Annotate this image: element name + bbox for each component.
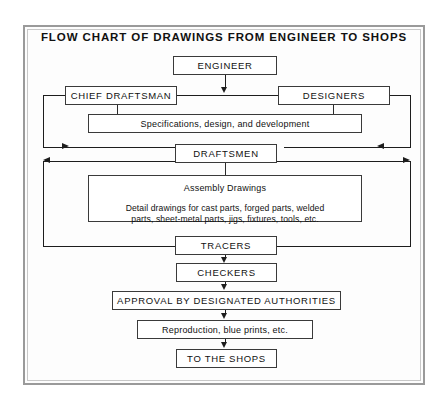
node-assembly-drawings-detail: Detail drawings for cast parts, forged p… [89, 203, 361, 225]
assembly-detail-line-1: Detail drawings for cast parts, forged p… [95, 203, 355, 214]
node-approval-label: APPROVAL BY DESIGNATED AUTHORITIES [117, 295, 336, 306]
edge-left-rail-into-draftsmen-2 [69, 147, 175, 148]
edge-draftsmen-out-right [277, 161, 410, 162]
edge-draftsmen-out-left [43, 161, 175, 162]
arrow-right-rail-into-draftsmen-icon [377, 143, 384, 149]
arrow-draftsmen-out-left-icon [43, 157, 50, 163]
edge-right-rail-upper [410, 95, 411, 148]
edge-right-rail-into-draftsmen [284, 147, 410, 148]
arrow-approval-to-reproduction-icon [221, 313, 227, 319]
edge-designers-right-out [390, 95, 410, 96]
node-to-the-shops-label: TO THE SHOPS [187, 353, 266, 364]
arrow-draftsmen-out-right-icon [403, 157, 410, 163]
page-title: FLOW CHART OF DRAWINGS FROM ENGINEER TO … [23, 31, 425, 43]
node-designers: DESIGNERS [278, 86, 390, 105]
node-engineer-label: ENGINEER [197, 60, 252, 71]
edge-right-rail-into-tracers [277, 246, 410, 247]
node-chief-draftsman-label: CHIEF DRAFTSMAN [71, 90, 172, 101]
arrow-left-rail-into-draftsmen-icon [62, 143, 69, 149]
node-approval: APPROVAL BY DESIGNATED AUTHORITIES [112, 291, 341, 310]
node-reproduction: Reproduction, blue prints, etc. [137, 320, 313, 339]
edge-chief-left-out [43, 95, 66, 96]
edge-draftsmen-to-assembly [225, 163, 226, 175]
node-specifications-label: Specifications, design, and development [141, 119, 310, 129]
flow-chart-figure: FLOW CHART OF DRAWINGS FROM ENGINEER TO … [0, 0, 444, 410]
node-draftsmen: DRAFTSMEN [175, 144, 277, 163]
assembly-detail-line-2: parts, sheet-metal parts, jigs, fixtures… [95, 214, 355, 225]
arrow-checkers-to-approval-icon [221, 284, 227, 290]
edge-left-rail-into-tracers [43, 246, 175, 247]
node-specifications: Specifications, design, and development [88, 114, 362, 133]
edge-chief-to-specifications [117, 105, 118, 114]
node-assembly-drawings: Assembly Drawings Detail drawings for ca… [88, 175, 362, 222]
node-chief-draftsman: CHIEF DRAFTSMAN [65, 86, 177, 105]
node-checkers-label: CHECKERS [197, 267, 255, 278]
edge-chief-to-designers [177, 95, 278, 96]
edge-left-rail-lower [43, 161, 44, 247]
edge-left-rail-upper [43, 95, 44, 148]
node-tracers: TRACERS [175, 236, 277, 255]
arrow-reproduction-to-shops-icon [221, 342, 227, 348]
node-tracers-label: TRACERS [201, 240, 251, 251]
edge-designers-to-specifications [333, 105, 334, 114]
node-assembly-drawings-heading: Assembly Drawings [89, 183, 361, 193]
edge-right-rail-lower [410, 161, 411, 247]
node-draftsmen-label: DRAFTSMEN [193, 148, 258, 159]
node-reproduction-label: Reproduction, blue prints, etc. [162, 325, 288, 335]
node-engineer: ENGINEER [173, 56, 277, 75]
node-checkers: CHECKERS [176, 263, 277, 282]
arrow-engineer-down-icon [221, 87, 227, 93]
node-to-the-shops: TO THE SHOPS [176, 349, 277, 368]
node-designers-label: DESIGNERS [303, 90, 365, 101]
